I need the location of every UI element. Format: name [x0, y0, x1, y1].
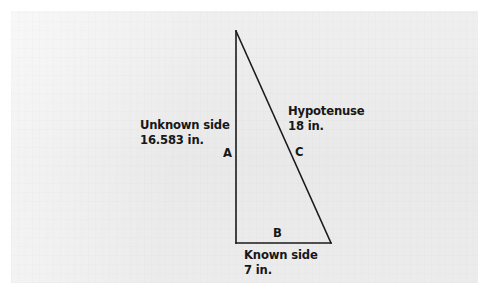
label-known-side-name: Known side [244, 247, 318, 262]
label-hypotenuse-name: Hypotenuse [288, 103, 365, 118]
label-hypotenuse-value: 18 in. [288, 118, 365, 133]
label-unknown-side: Unknown side 16.583 in. [140, 117, 230, 148]
label-hypotenuse: Hypotenuse 18 in. [288, 103, 365, 134]
label-vertex-a: A [223, 145, 232, 160]
label-vertex-c: C [295, 144, 303, 159]
label-vertex-b: B [273, 225, 282, 240]
figure-root: Unknown side 16.583 in. A Hypotenuse 18 … [0, 0, 491, 295]
label-known-side-value: 7 in. [244, 262, 318, 277]
triangle-hypotenuse-line [236, 31, 331, 243]
label-known-side: Known side 7 in. [244, 247, 318, 278]
label-unknown-side-name: Unknown side [140, 117, 230, 132]
label-unknown-side-value: 16.583 in. [140, 132, 230, 147]
